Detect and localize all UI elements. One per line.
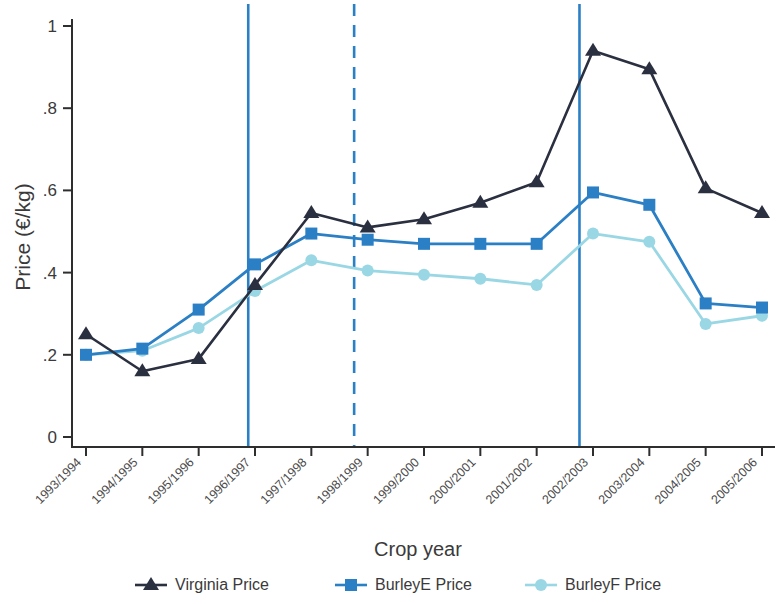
y-tick-label: .2 <box>43 346 57 365</box>
data-point-marker <box>362 265 374 277</box>
x-tick-label: 2001/2002 <box>483 455 535 507</box>
data-point-marker <box>136 343 148 355</box>
x-tick-labels: 1993/19941994/19951995/19961996/19971997… <box>32 455 760 507</box>
data-point-marker <box>585 43 601 56</box>
data-point-marker <box>531 279 543 291</box>
data-point-marker <box>700 297 712 309</box>
data-point-marker <box>249 258 261 270</box>
series-line <box>86 234 762 355</box>
data-point-marker <box>643 236 655 248</box>
x-tick-label: 2002/2003 <box>539 455 591 507</box>
reference-lines-group <box>248 4 579 447</box>
data-point-marker <box>362 234 374 246</box>
data-point-marker <box>700 318 712 330</box>
y-tick-label: .4 <box>43 264 57 283</box>
x-tick-label: 1997/1998 <box>258 455 310 507</box>
legend-item-burleyf-price[interactable]: BurleyF Price <box>525 576 661 593</box>
legend: Virginia PriceBurleyE PriceBurleyF Price <box>135 576 661 593</box>
data-point-marker <box>531 238 543 250</box>
y-tick-label: .8 <box>43 99 57 118</box>
data-point-marker <box>193 304 205 316</box>
data-point-marker <box>587 228 599 240</box>
data-point-marker <box>80 349 92 361</box>
data-point-marker <box>305 254 317 266</box>
y-tick-label: 1 <box>48 17 57 36</box>
legend-item-virginia-price[interactable]: Virginia Price <box>135 576 269 593</box>
y-tick-labels: 0.2.4.6.81 <box>43 17 57 447</box>
data-point-marker <box>643 199 655 211</box>
x-tick-label: 2005/2006 <box>708 455 760 507</box>
x-tick-group <box>86 447 762 456</box>
legend-label: BurleyE Price <box>375 576 472 593</box>
x-tick-label: 1994/1995 <box>89 455 141 507</box>
series-line <box>86 51 762 372</box>
data-point-marker <box>418 269 430 281</box>
y-tick-group <box>63 26 72 437</box>
x-tick-label: 1996/1997 <box>201 455 253 507</box>
data-point-marker <box>756 302 768 314</box>
data-point-marker <box>529 174 545 187</box>
data-point-marker <box>305 228 317 240</box>
data-point-marker <box>143 577 159 590</box>
y-tick-label: .6 <box>43 181 57 200</box>
series-group <box>78 43 770 377</box>
series-virginia-price <box>78 43 770 377</box>
x-tick-label: 1999/2000 <box>370 455 422 507</box>
data-point-marker <box>474 273 486 285</box>
x-tick-label: 2004/2005 <box>652 455 704 507</box>
data-point-marker <box>193 322 205 334</box>
x-tick-label: 2003/2004 <box>596 455 648 507</box>
x-tick-label: 1995/1996 <box>145 455 197 507</box>
y-axis-title: Price (€/kg) <box>11 183 34 290</box>
data-point-marker <box>78 326 94 339</box>
data-point-marker <box>535 579 547 591</box>
x-tick-label: 1998/1999 <box>314 455 366 507</box>
data-point-marker <box>474 238 486 250</box>
line-chart: 0.2.4.6.81 1993/19941994/19951995/199619… <box>0 0 779 604</box>
y-tick-label: 0 <box>48 428 57 447</box>
legend-item-burleye-price[interactable]: BurleyE Price <box>335 576 472 593</box>
data-point-marker <box>587 186 599 198</box>
x-axis-title: Crop year <box>374 538 462 560</box>
legend-label: BurleyF Price <box>565 576 661 593</box>
x-tick-label: 1993/1994 <box>32 455 84 507</box>
legend-label: Virginia Price <box>175 576 269 593</box>
data-point-marker <box>345 579 357 591</box>
data-point-marker <box>303 205 319 218</box>
data-point-marker <box>698 180 714 193</box>
chart-container: 0.2.4.6.81 1993/19941994/19951995/199619… <box>0 0 779 604</box>
x-tick-label: 2000/2001 <box>427 455 479 507</box>
data-point-marker <box>418 238 430 250</box>
